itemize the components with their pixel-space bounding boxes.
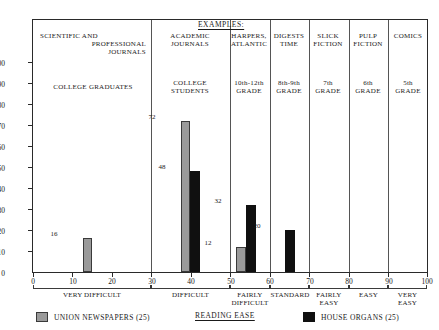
column-divider-70 xyxy=(309,20,310,272)
y-tick-label-90: 90 xyxy=(0,80,5,89)
y-tick-label-10: 10 xyxy=(0,248,5,257)
legend-label-union-newspapers: UNION NEWSPAPERS (25) xyxy=(54,313,150,322)
column-header-digests-l2: TIME xyxy=(269,40,309,49)
category-label-very-difficult: VERY DIFFICULT xyxy=(33,291,151,300)
reading-level-6th-l2: GRADE xyxy=(348,87,388,96)
y-tick-label-0: 0 xyxy=(0,269,5,278)
y-tick-label-60: 60 xyxy=(0,143,5,152)
legend-label-house-organs: HOUSE ORGANS (25) xyxy=(321,313,399,322)
category-label-very-easy-l2: EASY xyxy=(388,299,427,308)
bar-union-72 xyxy=(181,121,190,272)
column-header-academic-l2: JOURNALS xyxy=(152,40,228,49)
bar-house-20 xyxy=(285,230,295,272)
bar-value-16: 16 xyxy=(41,230,67,238)
reading-level-college-students-l2: STUDENTS xyxy=(152,87,228,96)
bar-house-48 xyxy=(190,171,200,272)
category-bracket-very-easy xyxy=(388,285,427,289)
bar-union-16 xyxy=(83,238,92,272)
category-bracket-difficult xyxy=(151,285,230,289)
bar-value-20: 20 xyxy=(244,222,270,230)
x-axis-title: READING EASE xyxy=(195,311,255,320)
reading-level-7th-l2: GRADE xyxy=(308,87,348,96)
bar-value-72: 72 xyxy=(139,113,165,121)
reading-level-8th-9th-l2: GRADE xyxy=(269,87,309,96)
bar-value-12: 12 xyxy=(195,239,221,247)
column-header-slick-l2: FICTION xyxy=(308,40,348,49)
reading-level-10th-12th-l2: GRADE xyxy=(229,87,269,96)
column-divider-80 xyxy=(349,20,350,272)
y-tick-label-80: 80 xyxy=(0,101,5,110)
category-bracket-very-difficult xyxy=(33,285,151,289)
y-tick-label-20: 20 xyxy=(0,227,5,236)
column-header-comics-l1: COMICS xyxy=(388,32,428,41)
y-tick-label-40: 40 xyxy=(0,185,5,194)
category-bracket-easy xyxy=(349,285,388,289)
bar-house-32 xyxy=(246,205,256,272)
column-divider-30 xyxy=(151,20,152,272)
category-label-easy: EASY xyxy=(349,291,388,300)
reading-level-5th-l2: GRADE xyxy=(388,87,428,96)
category-label-difficult: DIFFICULT xyxy=(151,291,230,300)
bar-value-32: 32 xyxy=(205,197,231,205)
column-header-pulp-l2: FICTION xyxy=(348,40,388,49)
reading-level-college-graduates: COLLEGE GRADUATES xyxy=(40,83,146,92)
bar-union-12 xyxy=(236,247,246,272)
legend-swatch-house-organs xyxy=(303,312,315,322)
category-bracket-fairly-easy xyxy=(309,285,349,289)
category-bracket-standard xyxy=(270,285,309,289)
plot-area xyxy=(32,19,428,273)
y-tick-label-70: 70 xyxy=(0,122,5,131)
legend-swatch-union-newspapers xyxy=(36,312,48,322)
column-header-scientific-l3: JOURNALS xyxy=(40,48,146,57)
category-bracket-fairly-difficult xyxy=(230,285,270,289)
column-divider-60 xyxy=(270,20,271,272)
y-tick-label-50: 50 xyxy=(0,164,5,173)
column-divider-50 xyxy=(230,20,231,272)
column-divider-90 xyxy=(388,20,389,272)
chart-root: % OF PUBLICATIONS 100 90 80 70 60 50 40 … xyxy=(0,0,439,330)
y-tick-label-30: 30 xyxy=(0,206,5,215)
category-label-fairly-easy-l2: EASY xyxy=(309,299,349,308)
category-label-standard: STANDARD xyxy=(268,291,312,300)
bar-value-48: 48 xyxy=(149,163,175,171)
examples-header: EXAMPLES: xyxy=(198,20,244,29)
y-tick-label-100: 100 xyxy=(0,59,5,68)
category-label-fairly-difficult-l2: DIFFICULT xyxy=(228,299,272,308)
column-header-harpers-l2: ATLANTIC xyxy=(229,40,269,49)
